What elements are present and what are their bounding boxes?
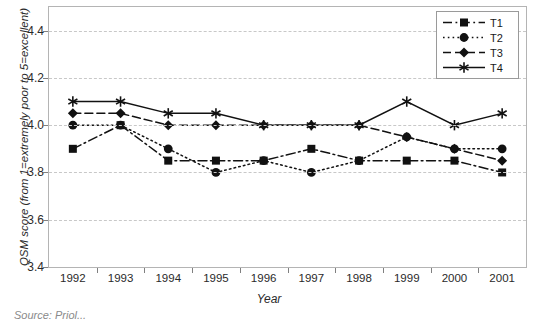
legend-label: T1 <box>487 17 503 29</box>
x-tick-label: 1995 <box>203 272 229 284</box>
y-axis-title: QSM score (from 1=extremely poor to 5=ex… <box>18 0 30 277</box>
source-note: Source: Priol... <box>14 309 86 321</box>
x-tick-label: 1997 <box>299 272 325 284</box>
x-tick-mark <box>478 268 479 273</box>
legend-item-t4: T4 <box>441 60 514 75</box>
x-tick-mark <box>240 268 241 273</box>
x-tick-label: 1993 <box>108 272 134 284</box>
legend-swatch <box>441 30 487 45</box>
x-tick-mark <box>431 268 432 273</box>
x-tick-label: 2001 <box>489 272 515 284</box>
legend-rows: T1T2T3T4 <box>441 15 514 75</box>
y-tick-mark <box>43 31 48 32</box>
x-tick-label: 2000 <box>442 272 468 284</box>
legend-item-t2: T2 <box>441 30 514 45</box>
legend-swatch <box>441 15 487 30</box>
y-tick-mark <box>43 267 48 268</box>
x-tick-mark <box>383 268 384 273</box>
y-tick-mark <box>43 125 48 126</box>
chart-container: 3.43.63.84.04.24.4 199219931994199519961… <box>0 0 538 321</box>
x-tick-label: 1998 <box>346 272 372 284</box>
x-tick-label: 1992 <box>60 272 86 284</box>
legend-item-t3: T3 <box>441 45 514 60</box>
x-tick-mark <box>335 268 336 273</box>
legend-label: T4 <box>487 62 503 74</box>
x-tick-mark <box>288 268 289 273</box>
y-tick-mark <box>43 78 48 79</box>
x-tick-label: 1996 <box>251 272 277 284</box>
y-tick-mark <box>43 172 48 173</box>
legend-swatch <box>441 45 487 60</box>
x-tick-mark <box>192 268 193 273</box>
y-tick-mark <box>43 220 48 221</box>
legend-swatch <box>441 60 487 75</box>
x-tick-label: 1994 <box>155 272 181 284</box>
x-tick-label: 1999 <box>394 272 420 284</box>
legend-label: T2 <box>487 32 503 44</box>
legend-item-t1: T1 <box>441 15 514 30</box>
legend-label: T3 <box>487 47 503 59</box>
x-axis-title: Year <box>0 292 538 306</box>
x-tick-mark <box>97 268 98 273</box>
legend: T1T2T3T4 <box>436 11 519 79</box>
x-tick-mark <box>144 268 145 273</box>
